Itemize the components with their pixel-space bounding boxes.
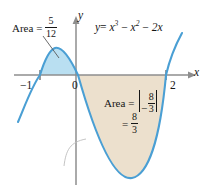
tan-area-equals-2: = [122, 118, 128, 130]
absolute-value-bar-left [139, 90, 140, 112]
tan-area-denominator: 3 [148, 104, 155, 115]
blue-area-numerator: 5 [45, 16, 57, 27]
equation-term2-exponent: 2 [136, 19, 140, 28]
x-axis-tick-label-zero: 0 [72, 79, 78, 91]
tan-area-fraction-signed: 8 3 [148, 92, 155, 115]
blue-area-fraction: 5 12 [45, 16, 57, 39]
equation-term1-exponent: 3 [115, 19, 119, 28]
tan-area-fraction-result: 8 3 [131, 112, 138, 135]
x-axis-tick-label-two: 2 [170, 79, 176, 91]
area-under-curve-figure: y= x3 − x2 − 2x Area = 5 12 Area = − 8 3… [0, 0, 209, 192]
tan-area-result-numerator: 8 [131, 112, 138, 123]
tan-area-minus-sign: − [141, 103, 148, 114]
tan-area-equals: = [128, 97, 134, 109]
x-axis-tick-label-neg1: −1 [20, 79, 32, 91]
absolute-value-bar-right [156, 90, 157, 112]
tan-area-numerator: 8 [148, 92, 155, 103]
x-axis-name-label: x [194, 66, 199, 78]
blue-area-denominator: 12 [45, 29, 57, 40]
y-axis-name-label: y [78, 9, 83, 21]
tan-area-result-denominator: 3 [131, 125, 138, 136]
equation-operator-2: − [142, 21, 149, 33]
blue-area-word: Area [12, 22, 33, 34]
equation-equals: = [100, 21, 107, 33]
tan-area-word: Area [104, 97, 125, 109]
equation-operator-1: − [121, 21, 128, 33]
blue-area-equals: = [36, 22, 42, 34]
curve-equation-label: y= x3 − x2 − 2x [95, 20, 163, 33]
tan-area-label-line2: = 8 3 [122, 112, 138, 135]
blue-area-label: Area = 5 12 [12, 16, 57, 39]
leader-line-axis-callout [64, 139, 86, 166]
equation-term3: 2x [152, 21, 163, 33]
